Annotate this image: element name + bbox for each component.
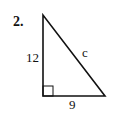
horizontal-leg-label: 9	[69, 98, 76, 111]
hypotenuse-label: c	[82, 46, 88, 59]
right-angle-marker	[43, 86, 53, 96]
problem-number: 2.	[13, 15, 24, 29]
right-triangle	[43, 15, 105, 96]
vertical-leg-label: 12	[26, 51, 39, 64]
